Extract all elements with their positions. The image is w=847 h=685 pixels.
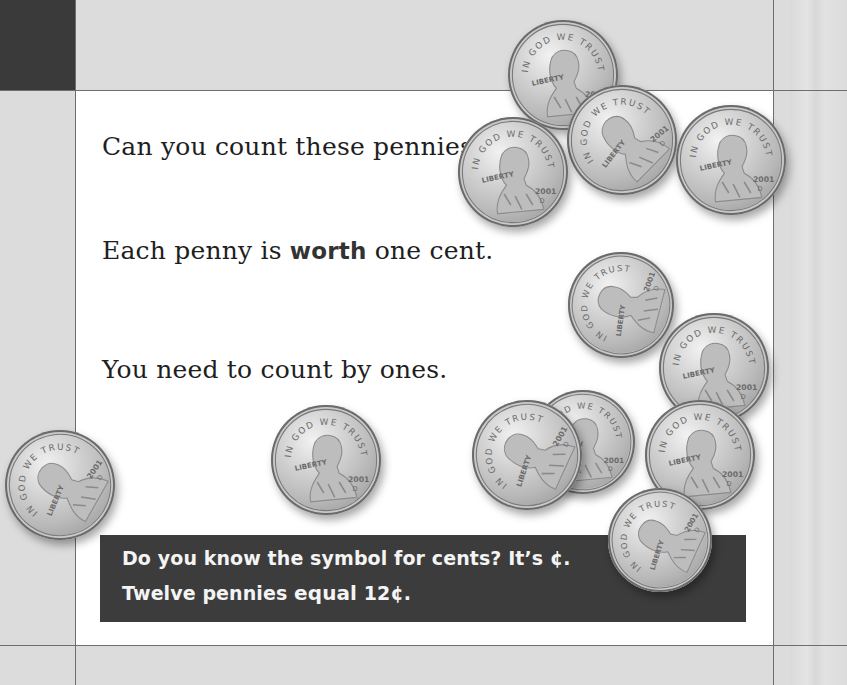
- svg-text:2001: 2001: [604, 456, 624, 465]
- svg-text:2001: 2001: [348, 475, 369, 484]
- guide-line-bottom: [0, 645, 847, 646]
- caption-line-2-after: 12¢.: [357, 582, 411, 604]
- guide-line-left: [75, 0, 76, 685]
- caption-line-2-before: Twelve pennies: [122, 582, 294, 604]
- worth-line-before: Each penny is: [102, 236, 290, 265]
- question-line: Can you count these pennies?: [102, 132, 487, 161]
- svg-text:D: D: [608, 465, 613, 472]
- svg-text:2001: 2001: [753, 175, 774, 184]
- corner-block: [0, 0, 75, 90]
- guide-line-top: [0, 90, 847, 91]
- equal-keyword: equal: [294, 581, 357, 605]
- worth-line: Each penny is worth one cent.: [102, 236, 493, 265]
- question-text: Can you count these pennies?: [102, 132, 487, 161]
- svg-text:D: D: [352, 485, 357, 493]
- guide-line-right: [773, 0, 774, 685]
- svg-text:D: D: [757, 185, 762, 193]
- caption-line-1: Do you know the symbol for cents? It’s ¢…: [122, 547, 571, 569]
- penny-icon: IN GOD WE TRUSTLIBERTY2001D: [676, 105, 786, 215]
- svg-text:D: D: [726, 480, 731, 488]
- worth-line-after: one cent.: [367, 236, 494, 265]
- svg-text:2001: 2001: [736, 383, 757, 392]
- svg-text:2001: 2001: [535, 187, 556, 196]
- svg-text:2001: 2001: [722, 470, 743, 479]
- penny-icon: IN GOD WE TRUSTLIBERTY2001D: [472, 400, 582, 510]
- page-edge-stripe: [790, 0, 847, 685]
- penny-icon: IN GOD WE TRUSTLIBERTY2001D: [5, 430, 115, 540]
- count-text: You need to count by ones.: [102, 355, 447, 384]
- penny-icon: IN GOD WE TRUSTLIBERTY2001D: [271, 405, 381, 515]
- penny-icon: IN GOD WE TRUSTLIBERTY2001D: [567, 85, 677, 195]
- penny-icon: IN GOD WE TRUSTLIBERTY2001D: [458, 117, 568, 227]
- caption-line-2: Twelve pennies equal 12¢.: [122, 581, 411, 605]
- count-line: You need to count by ones.: [102, 355, 447, 384]
- worth-keyword: worth: [290, 238, 367, 264]
- svg-text:D: D: [539, 197, 544, 205]
- penny-icon: IN GOD WE TRUSTLIBERTY2001D: [608, 488, 712, 592]
